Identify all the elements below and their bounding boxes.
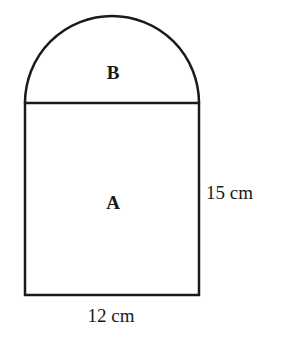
region-a-label: A xyxy=(106,192,120,213)
region-b-label: B xyxy=(107,62,120,83)
composite-shape-diagram: B A 15 cm 12 cm xyxy=(0,0,294,341)
height-dimension-label: 15 cm xyxy=(206,182,253,203)
semicircle-b-outline xyxy=(25,16,199,103)
width-dimension-label: 12 cm xyxy=(88,305,135,326)
